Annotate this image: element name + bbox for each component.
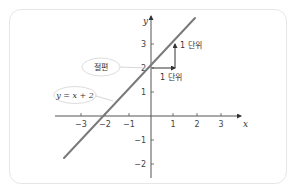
x-tick-label: 2 [194, 120, 199, 129]
y-tick-label: 3 [141, 40, 146, 49]
y-tick-label: −2 [134, 160, 146, 169]
coordinate-plane: −3 −2 −1 1 2 3 3 2 1 −1 −2 x y 1 단위 1 단위… [0, 0, 297, 192]
equation-callout: y = x + 2 [54, 87, 113, 104]
rise-label: 1 단위 [180, 40, 202, 50]
run-label: 1 단위 [160, 72, 182, 82]
x-axis-label: x [243, 119, 248, 129]
x-tick-label: −1 [123, 120, 135, 129]
intercept-label: 절편 [94, 62, 108, 72]
y-tick-label: 1 [141, 88, 146, 97]
intercept-callout: 절편 [82, 58, 146, 76]
x-tick-label: 3 [218, 120, 223, 129]
y-tick-label: −1 [134, 136, 146, 145]
x-tick-label: 1 [170, 120, 175, 129]
x-tick-label: −2 [99, 120, 111, 129]
x-tick-label: −3 [75, 120, 87, 129]
y-axis-label: y [142, 16, 149, 26]
equation-label: y = x + 2 [55, 91, 94, 100]
